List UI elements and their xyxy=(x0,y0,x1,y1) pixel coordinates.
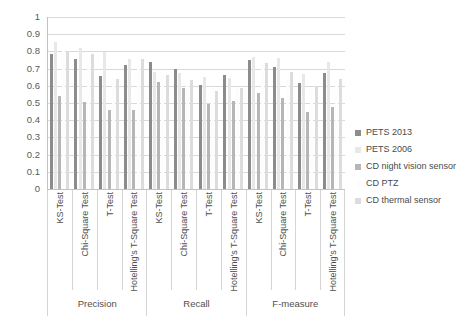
bar xyxy=(132,110,135,189)
legend-item[interactable]: PETS 2013 xyxy=(355,124,470,141)
x-axis-tick-cell: T-Test xyxy=(97,190,122,290)
bar-cluster xyxy=(246,17,271,189)
x-axis-group-label: F-measure xyxy=(272,298,318,309)
bar xyxy=(157,82,160,189)
bar xyxy=(62,51,65,189)
x-axis-tick-cell: Hotelling's T-Square Test xyxy=(320,190,345,290)
bar xyxy=(273,67,276,189)
legend-swatch-icon xyxy=(355,130,361,136)
x-axis-group-cell: Precision xyxy=(47,290,146,316)
bar xyxy=(186,84,189,189)
x-axis-tick-cell: Chi-Square Test xyxy=(171,190,196,290)
legend-item[interactable]: CD night vision sensor xyxy=(355,158,470,175)
bar xyxy=(112,78,115,189)
x-axis-tick-label: T-Test xyxy=(304,192,313,217)
y-axis-tick-label: 0.5 xyxy=(0,98,40,107)
bar xyxy=(223,75,226,189)
bar xyxy=(306,112,309,189)
bar xyxy=(137,58,140,189)
bar xyxy=(207,104,210,189)
x-axis-group-cell: Recall xyxy=(146,290,245,316)
bar xyxy=(178,73,181,189)
bar xyxy=(335,86,338,189)
bar xyxy=(302,74,305,189)
y-axis-tick-label: 0 xyxy=(0,184,40,193)
x-axis-tick-cell: KS-Test xyxy=(146,190,171,290)
plot-area xyxy=(47,17,345,189)
legend-item[interactable]: PETS 2006 xyxy=(355,141,470,158)
bar xyxy=(58,96,61,189)
x-axis-tick-cell: Hotelling's T-Square Test xyxy=(221,190,246,290)
bar xyxy=(50,54,53,189)
bar-cluster xyxy=(146,17,171,189)
bar xyxy=(54,42,57,189)
bar xyxy=(116,79,119,189)
bar-cluster xyxy=(295,17,320,189)
x-axis-tick-label: Hotelling's T-Square Test xyxy=(130,192,139,291)
x-axis-tick-label: Chi-Square Test xyxy=(180,192,189,256)
bar xyxy=(323,73,326,189)
x-axis-group-label: Recall xyxy=(183,298,209,309)
y-axis-tick-label: 1 xyxy=(0,12,40,21)
bar xyxy=(257,93,260,189)
bar xyxy=(66,51,69,189)
bar-cluster xyxy=(271,17,296,189)
legend-item[interactable]: CD PTZ xyxy=(355,175,470,192)
bar xyxy=(248,60,251,189)
y-axis-tick-label: 0.2 xyxy=(0,150,40,159)
legend-item[interactable]: CD thermal sensor xyxy=(355,192,470,209)
bar xyxy=(215,91,218,189)
legend-swatch-icon xyxy=(355,181,361,187)
y-axis-tick-label: 0.8 xyxy=(0,46,40,55)
x-axis-tick-cell: Chi-Square Test xyxy=(72,190,97,290)
legend-swatch-icon xyxy=(355,147,361,153)
bar xyxy=(199,85,202,189)
bar xyxy=(240,88,243,189)
legend-item-label: PETS 2013 xyxy=(366,128,412,137)
x-axis-tick-cell: KS-Test xyxy=(47,190,72,290)
bar-cluster xyxy=(196,17,221,189)
legend-item-label: CD thermal sensor xyxy=(366,196,441,205)
y-axis-tick-label: 0.6 xyxy=(0,81,40,90)
y-axis-tick-label: 0.9 xyxy=(0,29,40,38)
x-axis-tick-cell: Hotelling's T-Square Test xyxy=(122,190,147,290)
y-axis-tick-label: 0.3 xyxy=(0,132,40,141)
bar xyxy=(124,65,127,189)
bar-cluster xyxy=(47,17,72,189)
x-axis-tick-label: KS-Test xyxy=(55,192,64,224)
bar xyxy=(290,72,293,189)
x-axis-tick-label: T-Test xyxy=(105,192,114,217)
x-axis-labels: KS-TestChi-Square TestT-TestHotelling's … xyxy=(47,190,345,290)
bar xyxy=(108,110,111,189)
bar-cluster xyxy=(320,17,345,189)
bar xyxy=(277,58,280,189)
bar xyxy=(315,86,318,189)
bar xyxy=(228,78,231,189)
legend-item-label: CD PTZ xyxy=(366,179,399,188)
bar-cluster xyxy=(97,17,122,189)
bar xyxy=(281,98,284,189)
bars-layer xyxy=(47,17,345,189)
x-axis-tick-label: KS-Test xyxy=(155,192,164,224)
bar xyxy=(91,54,94,189)
bar xyxy=(83,102,86,189)
y-axis-tick-label: 0.4 xyxy=(0,115,40,124)
bar xyxy=(286,77,289,189)
bar xyxy=(174,69,177,189)
x-axis-tick-label: Hotelling's T-Square Test xyxy=(229,192,238,291)
bar xyxy=(252,57,255,189)
x-axis-tick-label: Chi-Square Test xyxy=(80,192,89,256)
bar xyxy=(149,62,152,189)
legend-swatch-icon xyxy=(355,164,361,170)
bar xyxy=(141,59,144,189)
bar xyxy=(327,62,330,189)
x-axis-tick-cell: T-Test xyxy=(295,190,320,290)
legend-swatch-icon xyxy=(355,198,361,204)
bar xyxy=(99,76,102,189)
y-axis-tick-label: 0.1 xyxy=(0,167,40,176)
bar xyxy=(211,91,214,189)
x-axis-group-label: Precision xyxy=(78,298,117,309)
bar-cluster xyxy=(221,17,246,189)
legend-item-label: PETS 2006 xyxy=(366,145,412,154)
bar xyxy=(232,101,235,189)
